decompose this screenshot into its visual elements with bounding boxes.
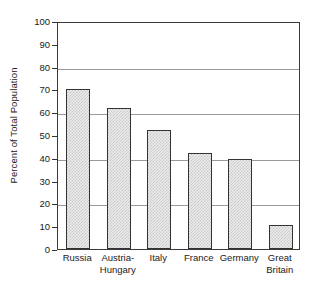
x-axis-tick-label: France <box>179 252 220 264</box>
y-axis-tick-labels: 0102030405060708090100 <box>24 22 50 250</box>
bar-russia <box>66 89 90 249</box>
y-axis-tick-mark <box>52 250 57 251</box>
bar-italy <box>147 130 171 249</box>
x-axis-tick-label-line: Germany <box>219 252 260 264</box>
y-axis-tick-label: 30 <box>24 177 50 187</box>
y-axis-tick-label: 10 <box>24 222 50 232</box>
y-axis-tick-label: 40 <box>24 154 50 164</box>
plot-area <box>57 22 300 250</box>
x-axis-tick-label-line: France <box>179 252 220 264</box>
y-axis-tick-label: 20 <box>24 200 50 210</box>
x-axis-tick-label: Russia <box>57 252 98 264</box>
bar-germany <box>228 159 252 249</box>
y-axis-title-label: Percent of Total Population <box>8 67 19 183</box>
y-axis-tick-label: 50 <box>24 131 50 141</box>
y-axis-title: Percent of Total Population <box>2 0 24 250</box>
bars-layer <box>58 23 299 249</box>
x-axis-tick-label-line: Hungary <box>98 264 139 276</box>
bar-austria-hungary <box>107 108 131 249</box>
x-axis-tick-label: Italy <box>138 252 179 264</box>
bar-great-britain <box>269 225 293 249</box>
x-axis-tick-label-line: Austria- <box>98 252 139 264</box>
x-axis-tick-label: GreatBritain <box>260 252 301 275</box>
x-axis-tick-label: Austria-Hungary <box>98 252 139 275</box>
plot-inner <box>58 23 299 249</box>
x-axis-tick-label-line: Great <box>260 252 301 264</box>
x-axis-tick-label: Germany <box>219 252 260 264</box>
y-axis-tick-label: 0 <box>24 245 50 255</box>
y-axis-tick-label: 70 <box>24 86 50 96</box>
bar-france <box>188 153 212 249</box>
y-axis-tick-label: 100 <box>24 17 50 27</box>
x-axis-tick-label-line: Russia <box>57 252 98 264</box>
x-axis-tick-label-line: Italy <box>138 252 179 264</box>
y-axis-tick-label: 80 <box>24 63 50 73</box>
x-axis-tick-label-line: Britain <box>260 264 301 276</box>
bar-chart-figure: Percent of Total Population 010203040506… <box>0 0 313 301</box>
y-axis-tick-label: 60 <box>24 108 50 118</box>
y-axis-tick-label: 90 <box>24 40 50 50</box>
x-axis-tick-labels: RussiaAustria-HungaryItalyFranceGermanyG… <box>57 252 300 296</box>
